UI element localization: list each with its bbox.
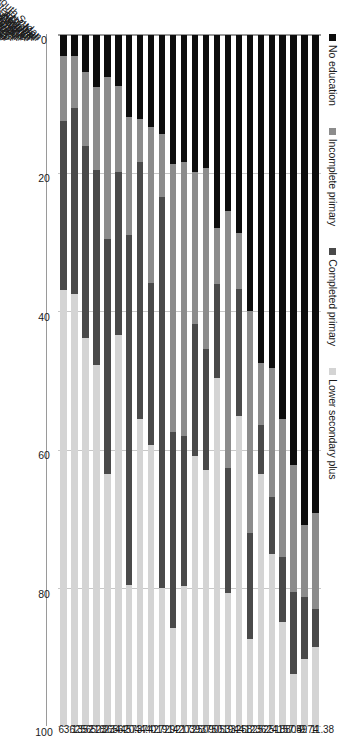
bar-segment-no-education[interactable] [137,35,143,119]
stacked-bar[interactable] [225,35,231,726]
bar-segment-lower-secondary-plus[interactable] [148,445,154,726]
bar-segment-completed-primary[interactable] [115,172,121,335]
stacked-bar[interactable] [258,35,264,726]
stacked-bar[interactable] [126,35,132,726]
bar-segment-incomplete-primary[interactable] [203,168,209,348]
bar-segment-completed-primary[interactable] [247,533,253,639]
bar-segment-incomplete-primary[interactable] [126,117,132,234]
bar-segment-lower-secondary-plus[interactable] [236,416,242,726]
bar-segment-completed-primary[interactable] [236,289,242,417]
bar-segment-lower-secondary-plus[interactable] [93,365,99,726]
bar-segment-lower-secondary-plus[interactable] [312,647,318,726]
bar-segment-no-education[interactable] [258,35,264,363]
bar-segment-no-education[interactable] [115,35,121,86]
bar-segment-lower-secondary-plus[interactable] [214,378,220,726]
bar-segment-no-education[interactable] [181,35,187,162]
bar-segment-incomplete-primary[interactable] [290,465,296,591]
bar-row[interactable]: 39.09 [190,35,201,726]
bar-row[interactable]: 52.23 [91,35,102,726]
bar-segment-incomplete-primary[interactable] [170,164,176,433]
stacked-bar[interactable] [115,35,121,726]
bar-segment-incomplete-primary[interactable] [93,87,99,170]
bar-row[interactable]: 62.52 [69,35,80,726]
stacked-bar[interactable] [301,35,307,726]
bar-segment-no-education[interactable] [280,35,286,419]
bar-segment-completed-primary[interactable] [148,283,154,445]
legend-item-3[interactable]: Lower secondary plus [327,368,339,479]
bar-row[interactable]: 11.38 [310,35,321,726]
bar-segment-incomplete-primary[interactable] [115,86,121,172]
bar-segment-completed-primary[interactable] [126,235,132,586]
bar-segment-completed-primary[interactable] [312,609,318,648]
bar-segment-no-education[interactable] [159,35,165,134]
bar-segment-lower-secondary-plus[interactable] [225,593,231,726]
bar-row[interactable]: 50.33 [211,35,222,726]
stacked-bar[interactable] [60,35,66,726]
bar-segment-incomplete-primary[interactable] [104,77,110,239]
bar-segment-incomplete-primary[interactable] [269,368,275,497]
stacked-bar[interactable] [93,35,99,726]
stacked-bar[interactable] [82,35,88,726]
bar-segment-no-education[interactable] [192,35,198,172]
bar-segment-incomplete-primary[interactable] [137,119,143,163]
stacked-bar[interactable] [269,35,275,726]
bar-segment-completed-primary[interactable] [225,468,231,593]
bar-segment-completed-primary[interactable] [93,170,99,365]
bar-segment-incomplete-primary[interactable] [60,56,66,121]
bar-segment-completed-primary[interactable] [159,197,165,588]
stacked-bar[interactable] [290,35,296,726]
bar-segment-lower-secondary-plus[interactable] [71,294,77,726]
bar-segment-no-education[interactable] [203,35,209,168]
bar-segment-completed-primary[interactable] [258,425,264,473]
bar-segment-lower-secondary-plus[interactable] [280,622,286,726]
bar-segment-no-education[interactable] [170,35,176,164]
bar-segment-no-education[interactable] [269,35,275,368]
stacked-bar[interactable] [148,35,154,726]
bar-segment-completed-primary[interactable] [181,436,187,586]
bar-segment-no-education[interactable] [225,35,231,211]
bar-segment-lower-secondary-plus[interactable] [301,659,307,726]
bar-segment-lower-secondary-plus[interactable] [192,456,198,726]
stacked-bar[interactable] [236,35,242,726]
legend-item-0[interactable]: No education [327,34,339,106]
bar-segment-incomplete-primary[interactable] [192,172,198,324]
bar-row[interactable]: 20.25 [179,35,190,726]
bar-segment-completed-primary[interactable] [269,497,275,554]
bar-segment-no-education[interactable] [93,35,99,87]
bar-segment-incomplete-primary[interactable] [301,525,307,597]
bar-segment-lower-secondary-plus[interactable] [203,470,209,726]
stacked-bar[interactable] [280,35,286,726]
bar-segment-incomplete-primary[interactable] [280,419,286,557]
bar-row[interactable]: 14.17 [168,35,179,726]
bar-segment-completed-primary[interactable] [60,121,66,290]
bar-segment-lower-secondary-plus[interactable] [115,335,121,726]
bar-segment-no-education[interactable] [60,35,66,56]
stacked-bar[interactable] [214,35,220,726]
bar-segment-completed-primary[interactable] [301,597,307,659]
bar-row[interactable]: 56.18 [80,35,91,726]
stacked-bar[interactable] [181,35,187,726]
bar-row[interactable]: 7.49 [288,35,299,726]
bar-segment-completed-primary[interactable] [104,239,110,474]
bar-segment-lower-secondary-plus[interactable] [247,639,253,726]
bar-row[interactable]: 9.74 [299,35,310,726]
bar-segment-incomplete-primary[interactable] [247,311,253,533]
bar-segment-lower-secondary-plus[interactable] [126,585,132,726]
legend-item-1[interactable]: Incomplete primary [327,128,339,226]
stacked-bar[interactable] [247,35,253,726]
stacked-bar[interactable] [192,35,198,726]
bar-segment-no-education[interactable] [71,35,77,56]
bar-segment-completed-primary[interactable] [290,592,296,674]
bar-row[interactable]: 12.52 [244,35,255,726]
bar-segment-no-education[interactable] [82,35,88,72]
bar-segment-completed-primary[interactable] [280,557,286,622]
bar-segment-no-education[interactable] [247,35,253,311]
bar-segment-completed-primary[interactable] [71,108,77,294]
bar-segment-no-education[interactable] [301,35,307,525]
bar-segment-lower-secondary-plus[interactable] [159,588,165,726]
bar-segment-incomplete-primary[interactable] [214,228,220,284]
bar-segment-lower-secondary-plus[interactable] [269,554,275,726]
bar-row[interactable]: 63.13 [58,35,69,726]
bar-segment-no-education[interactable] [104,35,110,77]
bar-segment-lower-secondary-plus[interactable] [104,474,110,726]
